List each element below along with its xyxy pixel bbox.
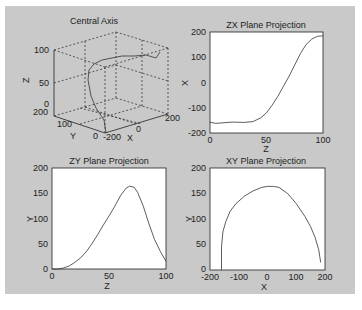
panel-zy-projection: ZY Plane Projection 200 150 100 50 0 0 5… <box>25 156 174 291</box>
x-tick: 100 <box>158 271 173 281</box>
x-tick: 0 <box>49 271 54 281</box>
y-tick: -100 <box>188 103 206 113</box>
y-axis-label: X <box>180 80 190 86</box>
y-tick: 200 <box>33 107 48 117</box>
y-tick: 0 <box>93 131 98 141</box>
x-axis-label: Z <box>263 144 269 154</box>
panel-title: Central Axis <box>70 16 119 26</box>
y-tick: 50 <box>38 239 48 249</box>
x-axis-label: X <box>127 133 133 143</box>
y-tick: 200 <box>191 163 206 173</box>
y-tick: 0 <box>43 264 48 274</box>
y-tick: 150 <box>33 188 48 198</box>
panel-zx-projection: ZX Plane Projection 200 100 0 -100 -200 … <box>180 20 331 154</box>
plot-area <box>52 168 166 269</box>
y-tick: 200 <box>33 163 48 173</box>
panel-title: ZX Plane Projection <box>226 20 306 30</box>
x-tick: 100 <box>315 135 330 145</box>
x-tick: 0 <box>136 124 141 134</box>
x-axis-label: Z <box>104 281 110 291</box>
panel-title: ZY Plane Projection <box>69 156 148 166</box>
y-axis-label: Y <box>25 216 35 222</box>
y-tick: -200 <box>188 128 206 138</box>
x-tick: -100 <box>230 272 248 282</box>
y-tick: 50 <box>196 239 206 249</box>
x-tick: 200 <box>317 272 332 282</box>
y-tick: 100 <box>57 119 72 129</box>
figure-canvas: Central Axis <box>0 0 362 310</box>
z-tick: 100 <box>34 45 49 55</box>
x-tick: 0 <box>264 272 269 282</box>
panel-central-axis: Central Axis <box>21 16 180 143</box>
plot-area <box>210 32 323 133</box>
z-axis-label: Z <box>21 77 31 83</box>
x-tick: 100 <box>288 272 303 282</box>
y-tick: 100 <box>191 52 206 62</box>
x-axis-label: X <box>261 282 267 292</box>
y-tick: 150 <box>191 188 206 198</box>
panel-xy-projection: XY Plane Projection 200 150 100 50 0 -20… <box>184 156 333 292</box>
y-axis-label: Y <box>184 216 194 222</box>
x-tick: 50 <box>104 271 114 281</box>
x-tick: 0 <box>207 135 212 145</box>
curve-3d <box>88 52 160 133</box>
z-tick: 50 <box>39 78 49 88</box>
y-axis-label: Y <box>70 131 76 141</box>
y-tick: 100 <box>33 214 48 224</box>
x-tick: 200 <box>165 113 180 123</box>
y-tick: 0 <box>201 78 206 88</box>
x-tick: -200 <box>103 132 121 142</box>
y-tick: 200 <box>191 27 206 37</box>
x-tick: -200 <box>201 272 219 282</box>
panel-title: XY Plane Projection <box>226 156 306 166</box>
